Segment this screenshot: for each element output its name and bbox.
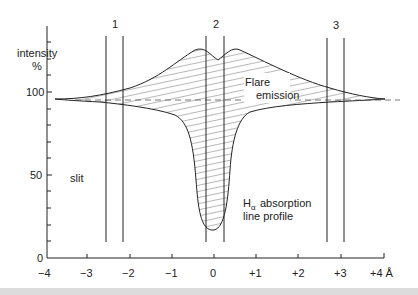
slit-pair-3 (327, 38, 344, 242)
absorption-label-H: H (243, 197, 251, 209)
x-tick-0: 0 (210, 267, 216, 279)
flare-label-line1: Flare (245, 76, 270, 88)
absorption-label-line2: line profile (243, 210, 293, 222)
x-tick-plus1: +1 (249, 267, 262, 279)
x-axis (47, 253, 384, 258)
absorption-label-line1: absorption (260, 197, 311, 209)
x-tick-minus4: −4 (38, 267, 51, 279)
hatched-region (55, 49, 385, 230)
y-axis-label-intensity: intensity (17, 47, 58, 59)
x-tick-minus2: −2 (122, 267, 135, 279)
y-axis-label-percent: % (32, 60, 42, 72)
bottom-band (0, 288, 418, 295)
x-tick-minus3: −3 (80, 267, 93, 279)
y-axis (47, 26, 52, 258)
y-tick-0: 0 (37, 252, 43, 264)
y-tick-100: 100 (26, 86, 44, 98)
flare-spectrum-diagram: intensity % 100 50 0 −4 −3 −2 −1 0 +1 +2… (0, 0, 418, 295)
y-tick-50: 50 (30, 169, 42, 181)
x-tick-plus4-angstrom: +4 Å (370, 267, 394, 279)
slit-label-3: 3 (333, 19, 339, 31)
flare-label-line2: emission (256, 89, 299, 101)
x-tick-plus3: +3 (334, 267, 347, 279)
x-tick-minus1: −1 (165, 267, 178, 279)
slit-annotation: slit (70, 172, 83, 184)
slit-label-2: 2 (213, 18, 219, 30)
slit-label-1: 1 (112, 18, 118, 30)
slit-pair-1 (106, 36, 123, 242)
x-tick-plus2: +2 (292, 267, 305, 279)
